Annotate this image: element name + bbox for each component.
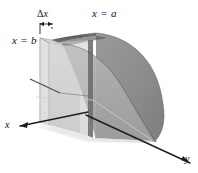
label-axis-x: x (5, 120, 9, 130)
figure-canvas (0, 0, 198, 173)
slab-thickness-indicator (40, 22, 52, 34)
label-plane-x-equals-a: x = a (92, 8, 117, 19)
delta-variable: x (43, 8, 47, 19)
label-slab-thickness: Δx (37, 9, 48, 19)
label-plane-x-equals-b: x = b (12, 35, 37, 46)
calculus-solid-slab-figure: x = b x = a Δx x y (0, 0, 198, 173)
label-axis-y: y (185, 154, 189, 164)
